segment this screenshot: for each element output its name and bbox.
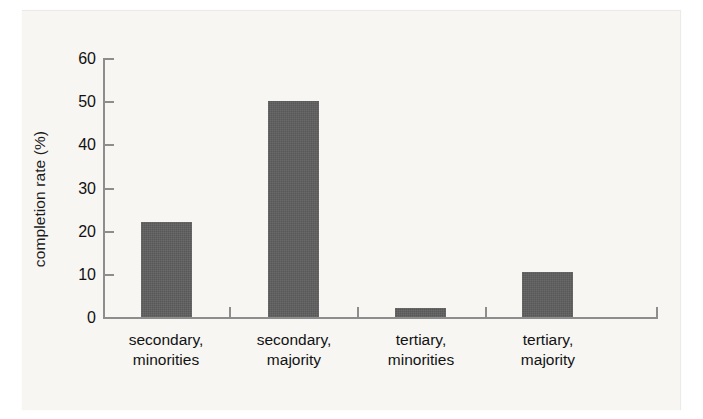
y-tick-label-40: 40: [50, 137, 96, 153]
y-axis-top-cap-tick: [103, 58, 114, 60]
x-tick-label-tertiary-majority: tertiary, majority: [478, 330, 618, 370]
x-separator-tick-3: [485, 307, 487, 319]
x-tick-label-line2: minorities: [351, 350, 491, 370]
bar-secondary-minorities: [141, 222, 192, 317]
x-tick-label-line1: secondary,: [257, 331, 332, 348]
y-tick-label-30: 30: [50, 181, 96, 197]
y-tick-label-10: 10: [50, 267, 96, 283]
x-tick-label-line2: majority: [478, 350, 618, 370]
y-tick-10: [103, 274, 114, 276]
y-tick-20: [103, 231, 114, 233]
x-tick-label-line2: majority: [224, 350, 364, 370]
y-tick-40: [103, 144, 114, 146]
x-tick-label-line2: minorities: [96, 350, 236, 370]
x-tick-label-secondary-minorities: secondary, minorities: [96, 330, 236, 370]
y-tick-50: [103, 101, 114, 103]
x-axis-line: [103, 317, 658, 319]
y-tick-label-60: 60: [50, 51, 96, 67]
bar-secondary-majority: [268, 101, 319, 317]
x-separator-tick-2: [357, 307, 359, 319]
x-tick-label-tertiary-minorities: tertiary, minorities: [351, 330, 491, 370]
bar-tertiary-minorities: [395, 308, 446, 317]
y-tick-label-0: 0: [50, 310, 96, 326]
x-tick-label-secondary-majority: secondary, majority: [224, 330, 364, 370]
y-tick-30: [103, 188, 114, 190]
y-tick-label-20: 20: [50, 224, 96, 240]
figure-page: completion rate (%) 60 50 40 30 20 10 0 …: [0, 0, 703, 419]
x-axis-right-cap-tick: [656, 307, 658, 319]
y-tick-label-50: 50: [50, 94, 96, 110]
x-separator-tick-1: [229, 307, 231, 319]
x-tick-label-line1: tertiary,: [396, 331, 447, 348]
bar-chart: completion rate (%) 60 50 40 30 20 10 0 …: [0, 0, 703, 419]
x-tick-label-line1: tertiary,: [523, 331, 574, 348]
bar-tertiary-majority: [522, 272, 573, 317]
x-tick-label-line1: secondary,: [129, 331, 204, 348]
